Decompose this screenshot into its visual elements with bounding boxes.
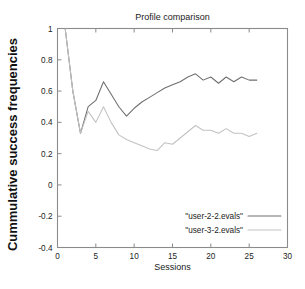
- x-axis-ticks: 051015202530: [55, 29, 292, 261]
- data-series-group: [65, 29, 257, 151]
- y-tick-label: 0: [48, 181, 53, 190]
- plot-area: -0.4-0.200.20.40.60.81 051015202530 "use…: [0, 0, 305, 289]
- legend-label-2: "user-3-2.evals": [185, 226, 243, 235]
- x-tick-label: 25: [245, 252, 255, 261]
- chart-container: Cummulative success frequencies Profile …: [0, 0, 305, 289]
- y-tick-label: 0.6: [41, 87, 53, 96]
- y-tick-label: 1: [48, 25, 53, 34]
- x-tick-label: 5: [94, 252, 99, 261]
- legend-label-1: "user-2-2.evals": [185, 212, 243, 221]
- chart-legend: "user-2-2.evals""user-3-2.evals": [185, 212, 281, 235]
- y-tick-label: 0.2: [41, 150, 53, 159]
- plot-frame: [58, 29, 288, 248]
- y-tick-label: 0.4: [41, 118, 53, 127]
- y-tick-label: -0.4: [38, 244, 53, 253]
- series-line-1: [65, 29, 257, 134]
- x-tick-label: 15: [168, 252, 178, 261]
- x-tick-label: 20: [206, 252, 216, 261]
- y-tick-label: -0.2: [38, 212, 53, 221]
- x-tick-label: 30: [283, 252, 293, 261]
- y-tick-label: 0.8: [41, 56, 53, 65]
- x-tick-label: 10: [130, 252, 140, 261]
- series-line-2: [65, 29, 257, 151]
- x-tick-label: 0: [55, 252, 60, 261]
